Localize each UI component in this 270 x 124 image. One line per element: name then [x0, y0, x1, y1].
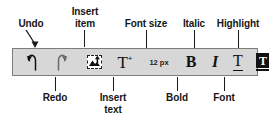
font-size-value: 12 px	[149, 58, 168, 67]
leader-line-font	[224, 77, 225, 91]
callout-label-italic: Italic	[176, 18, 212, 30]
undo-arrow-icon	[25, 53, 39, 71]
font-size-readout[interactable]: 12 px	[139, 49, 179, 75]
plus-icon: +	[128, 54, 133, 63]
bold-button[interactable]: B	[179, 49, 203, 75]
callout-label-highlight: Highlight	[210, 18, 266, 30]
callout-label-bold: Bold	[157, 92, 197, 104]
figure-canvas: Undo Insert item Font size Italic Highli…	[0, 0, 269, 124]
insert-text-t-plus-icon: T+	[117, 54, 132, 71]
insert-text-button[interactable]: T+	[111, 49, 139, 75]
callout-label-insert-item: Insert item	[60, 6, 110, 29]
insert-text-letter: T	[117, 53, 127, 72]
highlight-swatch-icon: T	[256, 53, 270, 71]
callout-label-font-size: Font size	[118, 18, 174, 30]
leader-line-insert-text	[113, 77, 114, 91]
leader-line-highlight	[238, 30, 239, 48]
callout-label-redo: Redo	[33, 92, 77, 104]
bold-b-icon: B	[186, 54, 197, 70]
redo-button[interactable]	[49, 49, 75, 75]
redo-arrow-icon	[55, 53, 69, 71]
highlight-swatch-box: T	[256, 53, 270, 68]
leader-line-redo	[55, 77, 56, 91]
font-t-underline-icon: T	[233, 53, 243, 71]
undo-button[interactable]	[19, 49, 45, 75]
text-formatting-toolbar[interactable]: T+ 12 px B I T T	[12, 48, 258, 76]
highlight-button[interactable]: T	[251, 49, 269, 75]
highlight-letter: T	[259, 55, 267, 67]
insert-picture-icon	[87, 55, 102, 69]
leader-line-italic	[194, 30, 195, 50]
leader-line-bold	[177, 77, 178, 91]
insert-item-button[interactable]	[81, 49, 107, 75]
leader-line-insert-item	[84, 30, 85, 47]
font-button[interactable]: T	[225, 49, 251, 75]
callout-label-undo: Undo	[6, 18, 56, 30]
callout-label-font: Font	[204, 92, 244, 104]
italic-i-icon: I	[212, 54, 218, 70]
highlight-underline-bar	[256, 69, 270, 71]
italic-button[interactable]: I	[203, 49, 227, 75]
leader-line-undo	[22, 30, 42, 50]
callout-label-insert-text: Insert text	[91, 92, 135, 115]
